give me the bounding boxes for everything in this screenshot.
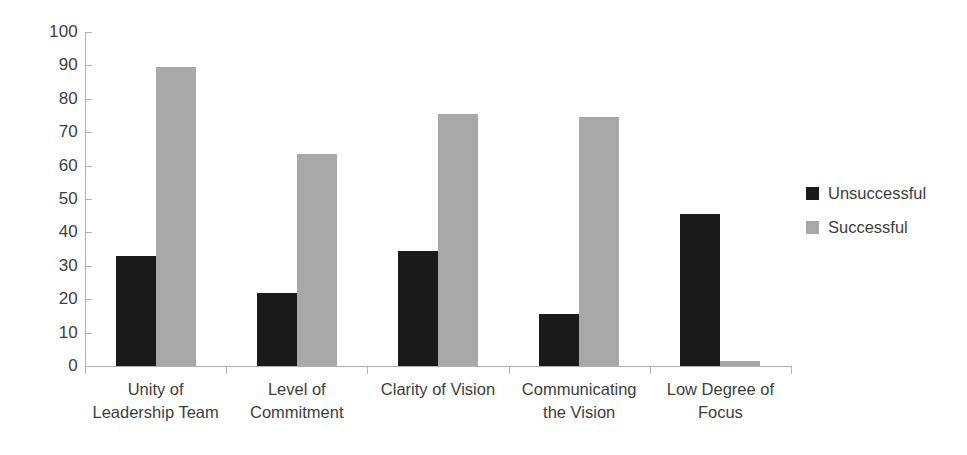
x-axis-tick xyxy=(650,366,651,374)
x-axis-line xyxy=(85,366,791,367)
legend-swatch-icon xyxy=(806,187,819,200)
bar-successful xyxy=(720,361,760,366)
legend-item: Unsuccessful xyxy=(806,176,926,210)
x-axis-tick xyxy=(367,366,368,374)
y-axis-tick-label: 20 xyxy=(8,290,78,307)
y-axis-tick-label: 100 xyxy=(8,23,78,40)
legend-label: Successful xyxy=(828,218,908,236)
bar-group xyxy=(226,32,367,366)
y-axis-tick-label-wrap: 20 xyxy=(0,290,78,307)
bar-unsuccessful xyxy=(680,214,720,366)
bar-successful xyxy=(156,67,196,366)
y-axis-tick-label: 90 xyxy=(8,56,78,73)
y-axis-tick-label: 0 xyxy=(8,357,78,374)
category-label-line: Level of xyxy=(218,378,375,401)
y-axis-tick-label-wrap: 50 xyxy=(0,190,78,207)
bar-group xyxy=(367,32,508,366)
x-axis-category-label: Clarity of Vision xyxy=(359,378,516,401)
x-axis-category-label: Communicatingthe Vision xyxy=(501,378,658,424)
bar-unsuccessful xyxy=(539,314,579,366)
x-axis-tick xyxy=(85,366,86,374)
x-axis-tick xyxy=(791,366,792,374)
y-axis-tick-label: 40 xyxy=(8,223,78,240)
y-axis-tick-label: 60 xyxy=(8,157,78,174)
y-axis-tick-label-wrap: 70 xyxy=(0,123,78,140)
bar-unsuccessful xyxy=(398,251,438,366)
y-axis-tick-label: 50 xyxy=(8,190,78,207)
x-axis-category-label: Level ofCommitment xyxy=(218,378,375,424)
category-label-line: Communicating xyxy=(501,378,658,401)
y-axis-tick-label-wrap: 80 xyxy=(0,90,78,107)
bar-successful xyxy=(579,117,619,366)
category-label-line: Leadership Team xyxy=(77,401,234,424)
x-axis-category-label: Unity ofLeadership Team xyxy=(77,378,234,424)
category-label-line: the Vision xyxy=(501,401,658,424)
category-label-line: Focus xyxy=(642,401,799,424)
bar-group xyxy=(509,32,650,366)
y-axis-tick-label-wrap: 60 xyxy=(0,157,78,174)
category-label-line: Low Degree of xyxy=(642,378,799,401)
bar-group xyxy=(85,32,226,366)
y-axis-tick-label-wrap: 10 xyxy=(0,324,78,341)
legend-swatch-icon xyxy=(806,221,819,234)
bar-unsuccessful xyxy=(116,256,156,366)
y-axis-tick-label: 70 xyxy=(8,123,78,140)
category-label-line: Unity of xyxy=(77,378,234,401)
category-label-line: Clarity of Vision xyxy=(359,378,516,401)
bar-unsuccessful xyxy=(257,293,297,366)
category-label-line: Commitment xyxy=(218,401,375,424)
chart-legend: UnsuccessfulSuccessful xyxy=(806,176,926,244)
bar-successful xyxy=(297,154,337,366)
y-axis-tick-label: 30 xyxy=(8,257,78,274)
y-axis-tick-label-wrap: 40 xyxy=(0,223,78,240)
bar-successful xyxy=(438,114,478,366)
y-axis-tick-label-wrap: 100 xyxy=(0,23,78,40)
x-axis-tick xyxy=(509,366,510,374)
legend-item: Successful xyxy=(806,210,926,244)
x-axis-category-label: Low Degree ofFocus xyxy=(642,378,799,424)
bar-group xyxy=(650,32,791,366)
y-axis-tick-label: 10 xyxy=(8,324,78,341)
y-axis-tick-label-wrap: 90 xyxy=(0,56,78,73)
legend-label: Unsuccessful xyxy=(828,184,926,202)
y-axis-tick-label-wrap: 30 xyxy=(0,257,78,274)
y-axis-tick-label: 80 xyxy=(8,90,78,107)
plot-area xyxy=(85,32,791,366)
bar-chart: 1009080706050403020100 Unity ofLeadershi… xyxy=(0,0,967,455)
x-axis-tick xyxy=(226,366,227,374)
y-axis-tick-label-wrap: 0 xyxy=(0,357,78,374)
